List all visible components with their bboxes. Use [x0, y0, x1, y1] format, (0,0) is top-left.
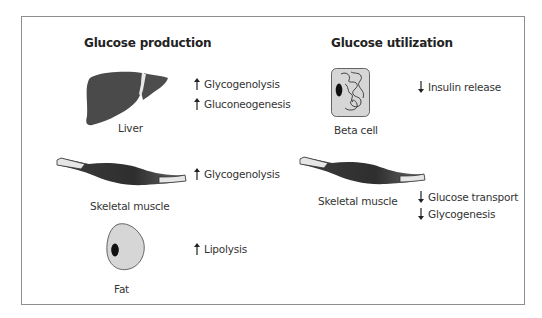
effect-text: Glucose transport [428, 191, 518, 203]
skeletal-muscle-label-left: Skeletal muscle [90, 200, 170, 212]
arrow-down-icon [417, 81, 425, 93]
skeletal-muscle-label-right: Skeletal muscle [318, 195, 398, 207]
fat-label: Fat [114, 283, 129, 295]
effect-muscle-glycogenolysis: Glycogenolysis [193, 168, 280, 180]
effect-muscle-glucose-transport: Glucose transport [417, 191, 518, 203]
effect-liver-gluconeogenesis: Gluconeogenesis [193, 98, 291, 110]
beta-cell-label: Beta cell [334, 124, 378, 136]
liver-illustration [84, 70, 170, 128]
liver-label: Liver [118, 122, 143, 134]
skeletal-muscle-illustration-right [298, 155, 426, 187]
effect-text: Insulin release [428, 81, 501, 93]
arrow-up-icon [193, 243, 201, 255]
arrow-up-icon [193, 78, 201, 90]
effect-muscle-glycogenesis: Glycogenesis [417, 208, 495, 220]
effect-text: Lipolysis [204, 243, 247, 255]
effect-text: Gluconeogenesis [204, 98, 291, 110]
effect-liver-glycogenolysis: Glycogenolysis [193, 78, 280, 90]
arrow-up-icon [193, 168, 201, 180]
arrow-down-icon [417, 191, 425, 203]
effect-text: Glycogenolysis [204, 168, 280, 180]
arrow-up-icon [193, 98, 201, 110]
fat-cell-illustration [105, 222, 147, 272]
effect-beta-insulin-release: Insulin release [417, 81, 501, 93]
skeletal-muscle-illustration-left [55, 156, 187, 188]
beta-cell-illustration [331, 68, 371, 118]
arrow-down-icon [417, 208, 425, 220]
effect-fat-lipolysis: Lipolysis [193, 243, 247, 255]
effect-text: Glycogenolysis [204, 78, 280, 90]
production-heading: Glucose production [84, 36, 211, 50]
effect-text: Glycogenesis [428, 208, 495, 220]
utilization-heading: Glucose utilization [331, 36, 453, 50]
